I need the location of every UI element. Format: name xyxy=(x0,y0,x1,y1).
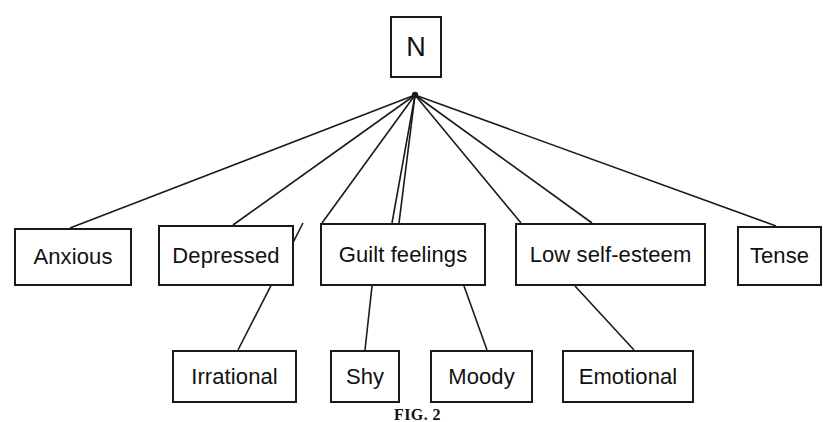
node-label: Depressed xyxy=(172,244,279,267)
node-guilt-feelings: Guilt feelings xyxy=(320,223,486,286)
node-shy: Shy xyxy=(330,350,400,403)
node-label: Guilt feelings xyxy=(339,243,468,266)
node-moody: Moody xyxy=(430,350,533,403)
node-label: Emotional xyxy=(579,365,678,388)
apex-junction xyxy=(412,92,418,98)
edge-root-to-tense xyxy=(415,95,776,226)
node-depressed: Depressed xyxy=(158,225,294,286)
figure-root: N Anxious Depressed Guilt feelings Low s… xyxy=(0,0,835,422)
node-anxious: Anxious xyxy=(14,228,132,286)
edge-root-to-low_self_esteem xyxy=(415,95,521,223)
edge-root-to-guilt_feelings xyxy=(399,95,415,223)
node-label: Moody xyxy=(448,365,515,388)
edge-low_self_esteem-to-emotional xyxy=(575,286,634,350)
edge-root-to-guilt_feelings2 xyxy=(392,95,415,223)
node-emotional: Emotional xyxy=(562,350,694,403)
node-label: Anxious xyxy=(34,245,113,268)
edge-guilt_feelings-to-moody xyxy=(464,286,487,350)
node-irrational: Irrational xyxy=(172,350,297,403)
node-low-self-esteem: Low self-esteem xyxy=(515,223,706,286)
figure-caption: FIG. 2 xyxy=(0,406,835,422)
edge-root-to-anxious xyxy=(70,95,415,228)
edge-root-to-irrational_path xyxy=(322,95,415,223)
edge-root-to-low_self_esteem2 xyxy=(415,95,592,223)
node-label: Irrational xyxy=(191,365,278,388)
edge-root-to-depressed xyxy=(233,95,415,225)
node-n: N xyxy=(390,16,442,78)
edge-guilt_feelings-to-shy xyxy=(365,286,372,350)
node-label: Shy xyxy=(346,365,384,388)
node-label: Low self-esteem xyxy=(530,243,692,266)
node-tense: Tense xyxy=(737,226,822,286)
node-label: Tense xyxy=(750,244,809,267)
node-label: N xyxy=(406,33,426,61)
